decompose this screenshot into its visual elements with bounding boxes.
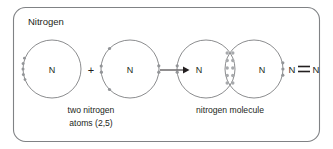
formula-right-symbol: N <box>313 64 320 75</box>
reactants-caption-line2: atoms (2,5) <box>69 118 113 128</box>
reactant-atom-left-group: N <box>22 40 82 98</box>
nitrogen-atom-right-symbol: N <box>127 65 134 75</box>
molecule-formula: N N <box>289 64 320 75</box>
molecule-atom-right-symbol: N <box>259 65 266 75</box>
nitrogen-bonding-figure: Nitrogen N + N <box>0 0 333 149</box>
reaction-arrow <box>160 67 190 74</box>
nitrogen-atom-left-symbol: N <box>49 65 56 75</box>
molecule-outer-electrons <box>176 61 285 77</box>
molecule-atom-left-symbol: N <box>196 65 203 75</box>
reactant-atom-right-group: N <box>100 40 161 98</box>
figure-frame <box>14 8 320 142</box>
plus-operator: + <box>88 64 94 76</box>
figure-canvas: Nitrogen N + N <box>0 0 333 149</box>
figure-title: Nitrogen <box>28 16 64 27</box>
formula-left-symbol: N <box>289 64 296 75</box>
product-caption: nitrogen molecule <box>196 105 264 115</box>
molecule-group: N N <box>176 40 285 98</box>
reactants-caption-line1: two nitrogen <box>68 105 115 115</box>
